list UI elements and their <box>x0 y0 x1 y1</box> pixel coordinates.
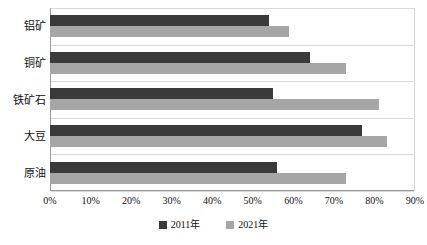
x-tick-label: 50% <box>244 194 262 208</box>
category-row <box>0 81 427 118</box>
bar-铝矿-2011年 <box>50 15 269 26</box>
category-label: 铁矿石 <box>2 94 46 106</box>
bar-原油-2011年 <box>50 162 277 173</box>
legend-entry[interactable]: 2011年 <box>159 219 201 230</box>
category-row <box>0 154 427 191</box>
x-axis-tick-labels: 0%10%20%30%40%50%60%70%80%90% <box>50 194 415 210</box>
legend-entry[interactable]: 2021年 <box>226 219 268 230</box>
category-label: 大豆 <box>2 130 46 142</box>
category-row <box>0 8 427 45</box>
category-label: 铜矿 <box>2 57 46 69</box>
category-label: 铝矿 <box>2 20 46 32</box>
legend-label: 2021年 <box>238 219 268 230</box>
bar-铜矿-2021年 <box>50 63 346 74</box>
x-tick-label: 60% <box>284 194 302 208</box>
legend-swatch-icon <box>159 221 167 229</box>
category-row <box>0 45 427 82</box>
bar-chart: 铝矿铜矿铁矿石大豆原油 0%10%20%30%40%50%60%70%80%90… <box>0 0 427 245</box>
bar-铝矿-2021年 <box>50 26 289 37</box>
x-tick-label: 40% <box>203 194 221 208</box>
legend-swatch-icon <box>226 221 234 229</box>
x-tick-label: 70% <box>325 194 343 208</box>
bar-大豆-2011年 <box>50 125 362 136</box>
chart-legend: 2011年2021年 <box>0 219 427 230</box>
x-tick-label: 80% <box>365 194 383 208</box>
category-row <box>0 118 427 155</box>
legend-label: 2011年 <box>171 219 201 230</box>
category-gridline <box>51 191 414 192</box>
bar-大豆-2021年 <box>50 136 387 147</box>
bar-铁矿石-2021年 <box>50 99 379 110</box>
x-tick-label: 90% <box>406 194 424 208</box>
bar-铜矿-2011年 <box>50 52 310 63</box>
bar-铁矿石-2011年 <box>50 88 273 99</box>
x-tick-label: 20% <box>122 194 140 208</box>
x-tick-label: 30% <box>162 194 180 208</box>
category-label: 原油 <box>2 167 46 179</box>
x-tick-label: 10% <box>81 194 99 208</box>
bar-原油-2021年 <box>50 173 346 184</box>
x-tick-label: 0% <box>43 194 56 208</box>
